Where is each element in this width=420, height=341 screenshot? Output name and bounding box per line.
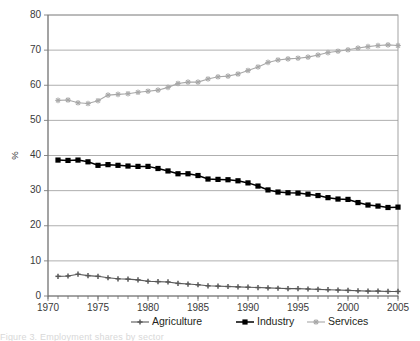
ytick-label-20: 20 [30,219,42,230]
data-point-industry-1980 [145,164,150,169]
xtick-label-1980: 1980 [137,302,160,313]
line-chart: 0102030405060708019701975198019851990199… [0,0,420,341]
figure-container: 0102030405060708019701975198019851990199… [0,0,420,341]
xtick-label-1970: 1970 [37,302,60,313]
ytick-label-10: 10 [30,255,42,266]
data-point-industry-1977 [115,163,120,168]
ytick-label-0: 0 [35,290,41,301]
data-point-industry-1975 [95,163,100,168]
gridlines: 01020304050607080 [30,9,398,301]
data-point-industry-1990 [245,180,250,185]
data-point-industry-1991 [255,183,260,188]
data-point-industry-1976 [105,162,110,167]
data-point-industry-1992 [265,187,270,192]
data-point-industry-2001 [355,200,360,205]
xtick-label-1995: 1995 [287,302,310,313]
series-agriculture [55,272,400,294]
figure-caption: Figure 3. Employment shares by sector [0,332,420,341]
xtick-label-2005: 2005 [387,302,410,313]
y-axis-title: % [9,151,20,160]
data-point-industry-1995 [295,190,300,195]
series-industry [55,157,400,210]
ytick-label-50: 50 [30,114,42,125]
data-point-industry-1997 [315,193,320,198]
xtick-label-2000: 2000 [337,302,360,313]
ytick-label-80: 80 [30,9,42,20]
ytick-label-30: 30 [30,184,42,195]
ytick-label-40: 40 [30,149,42,160]
xtick-label-1975: 1975 [87,302,110,313]
data-point-industry-1971 [55,157,60,162]
data-point-industry-2004 [385,205,390,210]
chart-legend: AgricultureIndustryServices [131,315,368,327]
data-point-industry-1999 [335,196,340,201]
xtick-label-1990: 1990 [237,302,260,313]
data-point-industry-1996 [305,192,310,197]
data-point-industry-2003 [375,203,380,208]
legend-label-services[interactable]: Services [328,315,368,327]
legend-marker-industry [242,319,247,324]
data-point-industry-1974 [85,159,90,164]
series-services [55,42,401,106]
xtick-label-1985: 1985 [187,302,210,313]
data-point-industry-1987 [215,177,220,182]
data-point-industry-1982 [165,168,170,173]
data-point-industry-2002 [365,202,370,207]
data-point-industry-1993 [275,189,280,194]
data-point-industry-1994 [285,190,290,195]
ytick-label-60: 60 [30,79,42,90]
x-axis-ticks: 19701975198019851990199520002005 [37,296,410,313]
data-point-industry-1983 [175,171,180,176]
legend-label-agriculture[interactable]: Agriculture [152,315,202,327]
data-point-industry-2000 [345,197,350,202]
data-point-industry-1989 [235,178,240,183]
data-point-industry-1981 [155,166,160,171]
data-point-industry-1984 [185,171,190,176]
data-point-industry-1998 [325,195,330,200]
ytick-label-70: 70 [30,44,42,55]
data-point-industry-1973 [75,157,80,162]
data-point-industry-1978 [125,163,130,168]
data-point-industry-1986 [205,176,210,181]
data-point-industry-1985 [195,173,200,178]
data-point-industry-1972 [65,158,70,163]
legend-label-industry[interactable]: Industry [257,315,295,327]
data-point-industry-1979 [135,164,140,169]
data-point-industry-1988 [225,177,230,182]
data-point-industry-2005 [395,205,400,210]
